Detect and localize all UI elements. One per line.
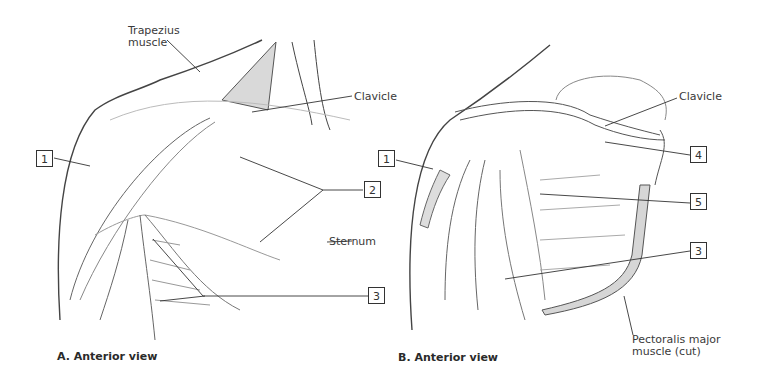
- label-box-1-b: 1: [378, 150, 395, 167]
- panel-a-leaders: [54, 40, 368, 301]
- label-box-5: 5: [690, 193, 707, 210]
- label-sternum: Sternum: [329, 236, 376, 248]
- label-box-4: 4: [690, 146, 707, 163]
- caption-panel-a: A. Anterior view: [57, 350, 157, 363]
- caption-panel-b: B. Anterior view: [398, 351, 498, 364]
- label-box-1-a: 1: [36, 150, 53, 167]
- label-clavicle-a: Clavicle: [354, 91, 397, 103]
- label-box-3-b: 3: [690, 242, 707, 259]
- label-pectoralis-major-cut: Pectoralis major muscle (cut): [632, 334, 720, 358]
- anatomy-illustration: [0, 0, 762, 388]
- panel-a-drawing: [58, 40, 350, 340]
- panel-b-drawing: [410, 45, 666, 330]
- label-box-3-a: 3: [368, 287, 385, 304]
- label-clavicle-b: Clavicle: [679, 91, 722, 103]
- label-trapezius-muscle: Trapezius muscle: [128, 25, 180, 49]
- label-box-2: 2: [364, 181, 381, 198]
